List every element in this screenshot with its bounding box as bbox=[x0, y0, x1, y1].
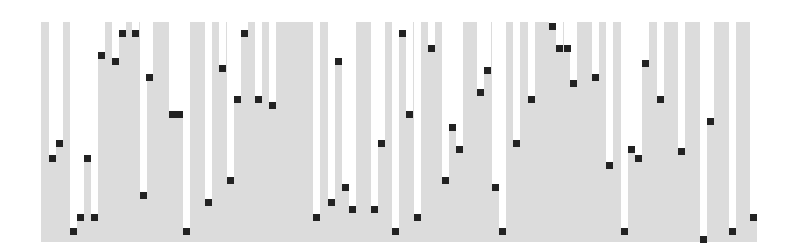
data-point-marker bbox=[442, 177, 449, 184]
chart-column-gap bbox=[499, 22, 506, 231]
data-point-marker bbox=[132, 30, 139, 37]
data-point-marker bbox=[335, 58, 342, 65]
data-point-marker bbox=[234, 96, 241, 103]
chart-column-gap bbox=[642, 22, 649, 64]
data-point-marker bbox=[678, 148, 685, 155]
chart-column-gap bbox=[477, 22, 484, 92]
chart-column-gap bbox=[183, 22, 190, 231]
chart-column-gap bbox=[392, 22, 399, 231]
chart-column-gap bbox=[269, 22, 276, 106]
data-point-marker bbox=[98, 52, 105, 59]
chart-column-gap bbox=[492, 22, 499, 187]
data-point-marker bbox=[513, 140, 520, 147]
data-point-marker bbox=[378, 140, 385, 147]
data-point-marker bbox=[392, 228, 399, 235]
data-point-marker bbox=[49, 155, 56, 162]
chart-column-gap bbox=[449, 22, 456, 128]
data-point-marker bbox=[140, 192, 147, 199]
data-point-marker bbox=[456, 146, 463, 153]
chart-column-gap bbox=[513, 22, 520, 143]
chart-column-gap bbox=[234, 22, 241, 99]
chart-column-gap bbox=[342, 22, 349, 187]
chart-column-gap bbox=[378, 22, 385, 143]
data-point-marker bbox=[255, 96, 262, 103]
data-point-marker bbox=[564, 45, 571, 52]
chart-column-gap bbox=[628, 22, 635, 150]
data-point-marker bbox=[484, 67, 491, 74]
data-point-marker bbox=[77, 214, 84, 221]
chart-column-gap bbox=[657, 22, 664, 99]
chart-column-gap bbox=[56, 22, 63, 143]
chart-column-gap bbox=[606, 22, 613, 165]
data-point-marker bbox=[112, 58, 119, 65]
data-point-marker bbox=[183, 228, 190, 235]
data-point-marker bbox=[592, 74, 599, 81]
data-point-marker bbox=[570, 80, 577, 87]
data-point-marker bbox=[657, 96, 664, 103]
data-point-marker bbox=[621, 228, 628, 235]
chart-column-gap bbox=[98, 22, 105, 55]
chart-column-gap bbox=[335, 22, 342, 62]
data-point-marker bbox=[707, 118, 714, 125]
chart-column-gap bbox=[729, 22, 736, 231]
chart-column-gap bbox=[484, 22, 491, 70]
data-point-marker bbox=[241, 30, 248, 37]
data-point-marker bbox=[119, 30, 126, 37]
data-point-marker bbox=[169, 111, 176, 118]
data-point-marker bbox=[84, 155, 91, 162]
data-point-marker bbox=[219, 65, 226, 72]
data-point-marker bbox=[700, 236, 707, 243]
chart-column-gap bbox=[371, 22, 378, 209]
data-point-marker bbox=[371, 206, 378, 213]
data-point-marker bbox=[313, 214, 320, 221]
data-point-marker bbox=[342, 184, 349, 191]
chart-column-gap bbox=[49, 22, 56, 158]
chart-column-gap bbox=[621, 22, 628, 231]
data-point-marker bbox=[499, 228, 506, 235]
data-point-marker bbox=[146, 74, 153, 81]
data-point-marker bbox=[176, 111, 183, 118]
chart-column-gap bbox=[442, 22, 449, 180]
chart-column-gap bbox=[456, 22, 463, 150]
data-point-marker bbox=[328, 199, 335, 206]
data-point-marker bbox=[205, 199, 212, 206]
chart-column-gap bbox=[349, 22, 356, 209]
data-point-marker bbox=[414, 214, 421, 221]
data-point-marker bbox=[269, 102, 276, 109]
chart-column-gap bbox=[112, 22, 119, 62]
chart-column-gap bbox=[707, 22, 714, 121]
chart-plot-area bbox=[0, 0, 792, 250]
chart-column-gap bbox=[84, 22, 91, 158]
chart-column-gap bbox=[219, 22, 226, 68]
data-point-marker bbox=[729, 228, 736, 235]
chart-column-gap bbox=[570, 22, 577, 84]
chart-column-gap bbox=[406, 22, 413, 114]
data-point-marker bbox=[399, 30, 406, 37]
chart-column-gap bbox=[528, 22, 535, 99]
chart-column-gap bbox=[227, 22, 234, 180]
data-point-marker bbox=[642, 60, 649, 67]
data-point-marker bbox=[492, 184, 499, 191]
data-point-marker bbox=[556, 45, 563, 52]
chart-column-gap bbox=[635, 22, 642, 158]
chart-column-gap bbox=[77, 22, 84, 218]
data-point-marker bbox=[635, 155, 642, 162]
data-point-marker bbox=[477, 89, 484, 96]
chart-column-gap bbox=[176, 22, 183, 114]
chart-column-gap bbox=[91, 22, 98, 218]
chart-column-gap bbox=[255, 22, 262, 99]
chart-column-gap bbox=[70, 22, 77, 231]
chart-column-gap bbox=[328, 22, 335, 202]
data-point-marker bbox=[528, 96, 535, 103]
data-point-marker bbox=[750, 214, 757, 221]
chart-column-gap bbox=[678, 22, 685, 152]
data-point-marker bbox=[70, 228, 77, 235]
data-point-marker bbox=[349, 206, 356, 213]
data-point-marker bbox=[628, 146, 635, 153]
chart-column-gap bbox=[313, 22, 320, 218]
chart-column-gap bbox=[205, 22, 212, 202]
chart-column-gap bbox=[700, 22, 707, 240]
chart-column-gap bbox=[414, 22, 421, 218]
data-point-marker bbox=[56, 140, 63, 147]
data-point-marker bbox=[91, 214, 98, 221]
